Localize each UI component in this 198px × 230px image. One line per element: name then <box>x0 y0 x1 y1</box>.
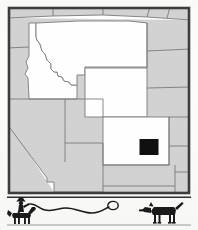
locator-map-svg <box>7 6 191 195</box>
lasso-rope-icon <box>30 201 118 213</box>
map-body <box>7 6 191 195</box>
footer-svg <box>0 196 198 230</box>
cowboy-on-horse-with-lasso-icon <box>7 198 36 224</box>
state-wyoming <box>85 68 147 117</box>
county-highlight-marker[interactable] <box>140 140 158 155</box>
figure-root <box>0 0 198 230</box>
dog-icon <box>139 202 184 224</box>
map-frame <box>7 6 191 195</box>
footer-decoration-band <box>0 196 198 230</box>
